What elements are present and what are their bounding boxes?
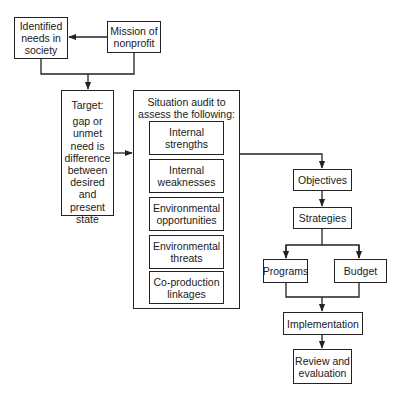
node-budget: Budget [334,259,387,283]
node-label: gap or unmet need is difference between … [65,115,111,225]
node-label: Internal weaknesses [158,164,216,188]
audit-item-environmental-opportunities: Environmental opportunities [149,197,224,231]
node-label: Identified needs in society [20,20,63,56]
node-objectives: Objectives [293,169,352,191]
node-label: Implementation [287,318,359,330]
node-implementation: Implementation [283,312,363,335]
audit-item-internal-weaknesses: Internal weaknesses [149,159,224,193]
node-label: Internal strengths [165,126,208,150]
node-heading: Situation audit to assess the following: [138,96,235,120]
node-label: Objectives [298,174,347,186]
audit-item-coproduction-linkages: Co-production linkages [149,271,224,304]
node-label: Strategies [299,212,346,224]
node-label: Environmental opportunities [153,202,220,226]
node-label: Programs [263,265,309,277]
node-heading: Target: [71,99,103,111]
audit-item-environmental-threats: Environmental threats [149,235,224,269]
node-label: Budget [344,265,377,277]
node-label: Environmental threats [153,240,220,264]
node-label: Mission of nonprofit [110,25,157,49]
node-label: Co-production linkages [154,276,220,300]
node-programs: Programs [263,259,308,283]
node-label: Review and evaluation [295,355,350,379]
node-target: Target: gap or unmet need is difference … [61,90,114,216]
node-strategies: Strategies [293,207,352,229]
audit-item-internal-strengths: Internal strengths [149,121,224,155]
node-identified-needs: Identified needs in society [14,17,68,59]
node-mission: Mission of nonprofit [107,21,161,53]
node-review-evaluation: Review and evaluation [293,349,352,384]
